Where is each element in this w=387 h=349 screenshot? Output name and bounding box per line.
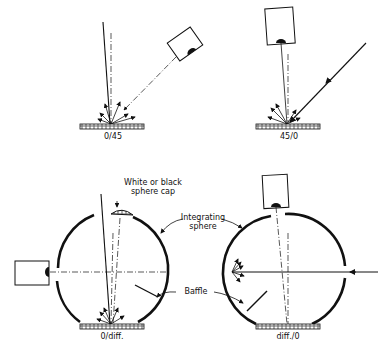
annotation-baffle: Baffle xyxy=(178,287,214,296)
detector-box xyxy=(167,27,203,61)
detector-box xyxy=(265,7,295,45)
panel-label-45-0: 45/0 xyxy=(274,132,304,141)
panel-0-45 xyxy=(80,22,203,129)
detector-box xyxy=(15,261,49,285)
annotation-integrating-sphere: Integrating sphere xyxy=(180,213,226,231)
viewing-beam xyxy=(281,43,287,124)
scatter-arrows xyxy=(268,104,300,124)
sample-plate xyxy=(80,324,144,329)
annotation-sphere-cap: White or black sphere cap xyxy=(118,178,188,196)
sample-plate xyxy=(256,124,320,129)
incident-beam xyxy=(101,194,110,324)
viewing-axis xyxy=(276,207,287,324)
scatter-arrows xyxy=(232,259,244,282)
annotation-line-1: White or black xyxy=(118,178,188,187)
annotation-line-2: sphere xyxy=(180,222,226,231)
integrating-sphere-wall xyxy=(223,216,271,324)
panel-label-0-diff: 0/diff. xyxy=(94,332,130,341)
diagram-canvas xyxy=(0,0,387,349)
panel-label-0-45: 0/45 xyxy=(98,132,128,141)
panel-0-diff xyxy=(15,194,168,329)
annotation-line-2: sphere cap xyxy=(118,187,188,196)
panel-label-diff-0: diff./0 xyxy=(270,332,306,341)
sphere-cap xyxy=(111,210,133,215)
panel-diff-0 xyxy=(223,174,378,329)
sample-plate xyxy=(80,124,144,129)
scatter-arrows xyxy=(98,102,135,124)
scatter-arrows xyxy=(97,308,124,324)
annotation-line-1: Integrating xyxy=(180,213,226,222)
viewing-axis xyxy=(124,57,176,110)
panel-45-0 xyxy=(256,7,366,129)
baffle xyxy=(135,285,158,297)
integrating-sphere-wall xyxy=(58,215,94,268)
incident-beam xyxy=(290,43,366,122)
baffle xyxy=(247,291,267,311)
sample-plate xyxy=(256,324,320,329)
